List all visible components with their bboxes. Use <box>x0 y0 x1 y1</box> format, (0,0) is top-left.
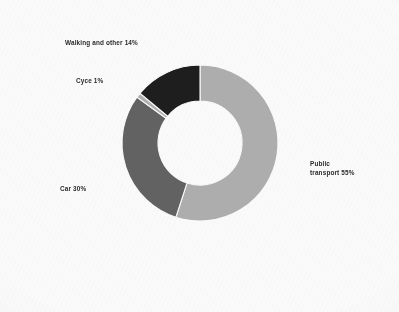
slice-label-public-transport: Publictransport 55% <box>310 160 355 177</box>
donut-chart-figure: Walking and other 14% Cyce 1% Car 30% Pu… <box>0 0 399 312</box>
donut-slice-car[interactable] <box>122 97 187 217</box>
slice-label-public-transport-line2: transport 55% <box>310 169 355 176</box>
donut-slices-group <box>122 65 278 221</box>
slice-label-walking-and-other: Walking and other 14% <box>65 39 138 48</box>
donut-chart-svg <box>0 0 399 312</box>
slice-label-cycle: Cyce 1% <box>76 77 103 86</box>
slice-label-public-transport-line1: Public <box>310 160 330 167</box>
slice-label-car: Car 30% <box>60 185 86 194</box>
